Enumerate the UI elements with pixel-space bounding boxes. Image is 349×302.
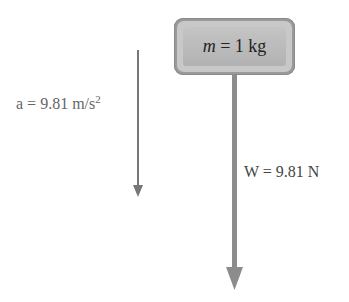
weight-label: W = 9.81 N: [244, 163, 319, 181]
mass-value: = 1 kg: [216, 36, 267, 56]
mass-block-face: m = 1 kg: [183, 27, 286, 66]
weight-arrow: [226, 75, 243, 290]
acceleration-text: a = 9.81 m/s: [16, 95, 95, 112]
acceleration-label: a = 9.81 m/s2: [16, 93, 101, 113]
acceleration-exponent: 2: [95, 93, 101, 105]
acceleration-arrow: [133, 50, 143, 197]
mass-label: m = 1 kg: [203, 36, 267, 57]
mass-variable: m: [203, 36, 216, 56]
mass-block: m = 1 kg: [174, 18, 295, 75]
